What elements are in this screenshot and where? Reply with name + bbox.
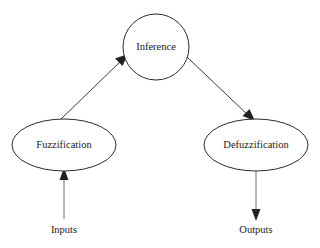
node-defuzzification-label: Defuzzification [223,139,289,150]
node-inference[interactable]: Inference [123,14,189,80]
node-fuzzification[interactable]: Fuzzification [12,119,116,171]
edge-line-inference-defuzzification [187,57,249,116]
edge-inputs-to-fuzzification [60,168,69,219]
node-fuzzification-label: Fuzzification [36,139,92,150]
diagram-canvas-root: Inference Fuzzification Defuzzification … [0,0,320,248]
node-defuzzification[interactable]: Defuzzification [204,119,308,171]
edge-inference-to-defuzzification [187,57,255,121]
node-inference-label: Inference [136,41,176,52]
fuzzy-inference-diagram: Inference Fuzzification Defuzzification … [0,0,320,248]
io-label-outputs: Outputs [239,224,272,235]
edge-fuzzification-to-inference [61,54,128,119]
arrowhead-down-to-outputs [252,209,261,221]
edge-line-fuzzification-inference [61,59,123,119]
io-label-inputs: Inputs [51,224,77,235]
edge-defuzzification-to-outputs [252,171,261,221]
